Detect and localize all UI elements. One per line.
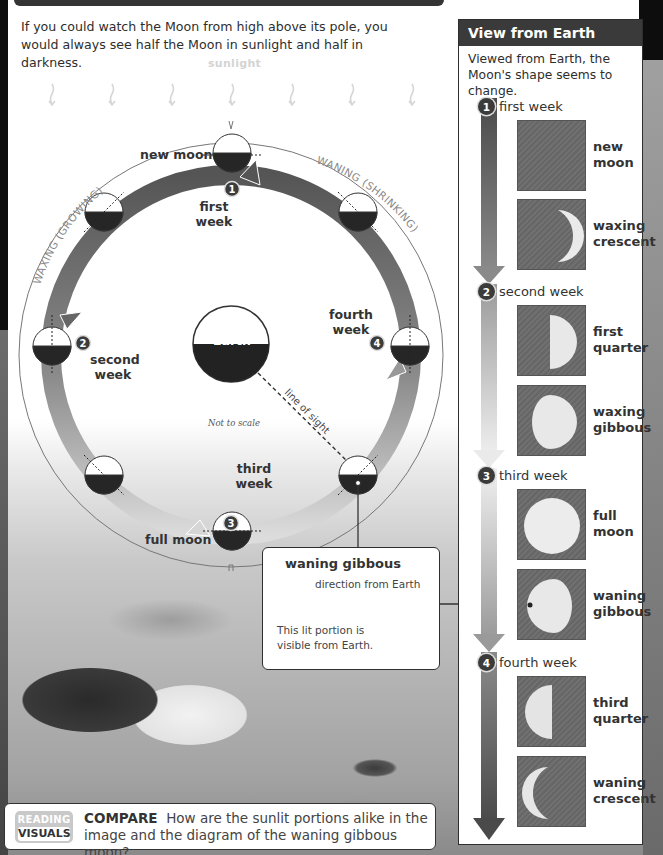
panel-subtitle: Viewed from Earth, the Moon's shape seem…: [459, 46, 642, 99]
week-1-label: firstweek: [194, 199, 234, 229]
svg-text:1: 1: [229, 184, 236, 195]
waxing-gibbous-photo: [517, 385, 586, 456]
phase-label-third-quarter: thirdquarter: [593, 695, 648, 727]
new-moon-label: new moon: [140, 147, 212, 162]
week-badge: 3: [478, 467, 495, 484]
waning-gibbous-callout: waning gibbous direction from Earth This…: [262, 547, 440, 670]
panel-title: View from Earth: [459, 20, 642, 46]
first-quarter-photo: [517, 305, 586, 376]
direction-label: direction from Earth: [315, 578, 420, 590]
scale-note: Not to scale: [207, 418, 260, 428]
lit-portion-label: This lit portion is visible from Earth.: [277, 623, 373, 653]
new-moon-photo: [517, 120, 586, 191]
week-3-label: thirdweek: [234, 461, 274, 491]
callout-title: waning gibbous: [285, 556, 401, 571]
svg-text:3: 3: [228, 518, 235, 529]
reading-visuals-badge: READING VISUALS: [15, 811, 73, 843]
week-2-header: 2 second week: [478, 283, 584, 300]
third-quarter-photo: [517, 676, 586, 747]
phase-label-waxing-gibbous: waxinggibbous: [593, 404, 651, 436]
phase-label-new-moon: newmoon: [593, 139, 634, 171]
week-badge: 1: [478, 98, 495, 115]
waxing-crescent-photo: [517, 199, 586, 270]
waning-gibbous-photo: [517, 569, 586, 640]
week-3-header: 3 third week: [478, 467, 568, 484]
svg-text:4: 4: [374, 338, 381, 349]
orbit-diagram: sunlight: [0, 0, 460, 640]
svg-text:2: 2: [80, 338, 87, 349]
full-moon-photo: [517, 489, 586, 560]
week-2-label: secondweek: [90, 352, 136, 382]
week-badge: 2: [478, 283, 495, 300]
waning-crescent-photo: [517, 756, 586, 827]
week-badge: 4: [478, 654, 495, 671]
phase-label-waning-crescent: waningcrescent: [593, 775, 656, 807]
page-edge: [643, 60, 663, 855]
week-1-header: 1 first week: [478, 98, 563, 115]
phase-label-waning-gibbous: waninggibbous: [593, 588, 651, 620]
compare-question: COMPARE How are the sunlit portions alik…: [84, 810, 429, 855]
reading-visuals-box: READING VISUALS COMPARE How are the sunl…: [4, 803, 436, 850]
full-moon-label: full moon: [145, 532, 211, 547]
orbit-svg: 1 2 3 4 Earth WAXING (GROWING) WANING (S…: [0, 0, 460, 640]
earth-label: Earth: [213, 333, 251, 348]
line-of-sight-label: line of sight: [283, 387, 332, 436]
phase-label-full-moon: fullmoon: [593, 508, 634, 540]
sunlight-arrows: [49, 84, 415, 105]
week-4-label: fourthweek: [328, 307, 374, 337]
phase-label-waxing-crescent: waxingcrescent: [593, 218, 656, 250]
view-from-earth-panel: View from Earth Viewed from Earth, the M…: [458, 19, 643, 845]
week-4-header: 4 fourth week: [478, 654, 577, 671]
phase-label-first-quarter: firstquarter: [593, 324, 648, 356]
